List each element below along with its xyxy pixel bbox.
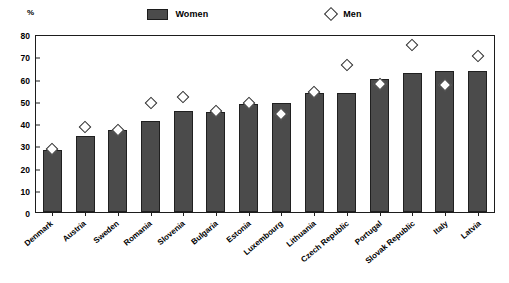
x-axis-label-slot: Czech Republic: [331, 213, 364, 283]
chart-container: Women Men % 01020304050607080 DenmarkAus…: [0, 0, 509, 283]
marker-men: [144, 97, 157, 110]
x-axis-label-slot: Slovenia: [166, 213, 199, 283]
bar-group: [330, 36, 363, 212]
plot-area: 01020304050607080: [35, 35, 495, 213]
bars-layer: [36, 36, 494, 212]
bar-group: [101, 36, 134, 212]
y-axis-tick-label: 20: [21, 165, 36, 175]
x-axis-label-slot: Slovak Republic: [396, 213, 429, 283]
bar-women: [468, 71, 487, 212]
marker-men: [79, 121, 92, 134]
x-axis-label-slot: Bulgaria: [199, 213, 232, 283]
y-axis-tick-label: 40: [21, 120, 36, 130]
x-axis-label-slot: Luxembourg: [265, 213, 298, 283]
x-axis-category-text: Italy: [431, 219, 449, 236]
legend-swatch-icon: [147, 9, 168, 20]
marker-men: [406, 39, 419, 52]
x-axis-label-slot: Denmark: [35, 213, 68, 283]
y-axis-tick-label: 50: [21, 98, 36, 108]
marker-men: [177, 91, 190, 104]
bar-group: [461, 36, 494, 212]
bar-group: [396, 36, 429, 212]
x-axis-label-slot: Romania: [134, 213, 167, 283]
bar-women: [108, 130, 127, 212]
bar-group: [298, 36, 331, 212]
bar-women: [174, 111, 193, 212]
bar-group: [134, 36, 167, 212]
x-axis-category-text: Latvia: [459, 219, 482, 241]
bar-group: [200, 36, 233, 212]
y-axis-unit-label: %: [27, 8, 34, 17]
bar-women: [43, 150, 62, 212]
legend-diamond-icon: [324, 7, 338, 21]
x-axis-label-slot: Sweden: [101, 213, 134, 283]
bar-group: [69, 36, 102, 212]
x-axis-label-slot: Austria: [68, 213, 101, 283]
y-axis-tick-label: 30: [21, 142, 36, 152]
bar-women: [337, 93, 356, 212]
y-axis-tick-label: 70: [21, 53, 36, 63]
chart-legend: Women Men: [0, 6, 509, 22]
legend-label-men: Men: [343, 10, 361, 19]
bar-women: [239, 104, 258, 212]
bar-group: [232, 36, 265, 212]
x-axis-label-slot: Latvia: [462, 213, 495, 283]
bar-group: [36, 36, 69, 212]
x-axis-category-text: Denmark: [23, 219, 55, 248]
y-axis-tick-label: 60: [21, 76, 36, 86]
bar-group: [167, 36, 200, 212]
bar-women: [403, 73, 422, 212]
bar-group: [265, 36, 298, 212]
y-axis-tick-label: 10: [21, 187, 36, 197]
bar-women: [141, 121, 160, 212]
legend-item-women: Women: [147, 9, 208, 20]
marker-men: [340, 59, 353, 72]
y-axis-tick-label: 80: [21, 31, 36, 41]
bar-women: [206, 112, 225, 212]
x-axis-label-slot: Italy: [429, 213, 462, 283]
marker-men: [471, 50, 484, 63]
x-axis-labels: DenmarkAustriaSwedenRomaniaSloveniaBulga…: [35, 213, 495, 283]
legend-label-women: Women: [175, 10, 208, 19]
legend-item-men: Men: [326, 9, 361, 19]
